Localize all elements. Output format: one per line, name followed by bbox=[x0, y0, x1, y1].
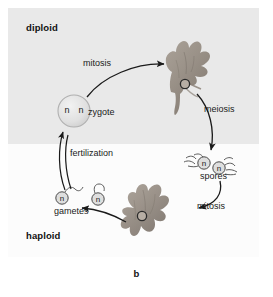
gamete-n-marker-1: n bbox=[60, 194, 64, 203]
zygote-n-marker-1: n bbox=[64, 105, 69, 115]
diagram-graphics-layer: n n n n n bbox=[8, 8, 259, 257]
figure-root: n n n n n bbox=[0, 0, 273, 297]
spore-cell-left: n bbox=[184, 154, 210, 169]
zygote-label: zygote bbox=[88, 107, 115, 117]
zygote-n-marker-2: n bbox=[78, 105, 83, 115]
arrow-mitosis-top bbox=[87, 64, 164, 97]
haploid-zone-label: haploid bbox=[26, 230, 60, 241]
fertilization-label: fertilization bbox=[70, 148, 113, 158]
spores-label: spores bbox=[200, 171, 227, 181]
gamete-cell-left: n bbox=[56, 187, 83, 204]
sporophyte-nucleus bbox=[180, 79, 189, 88]
spore-n-marker-1: n bbox=[202, 159, 206, 168]
arrow-meiosis bbox=[197, 94, 212, 150]
mitosis-top-label: mitosis bbox=[83, 58, 111, 68]
arrow-fertilization bbox=[59, 132, 71, 190]
gametophyte-nucleus bbox=[137, 211, 146, 220]
diploid-zone-label: diploid bbox=[26, 22, 58, 33]
gamete-n-marker-2: n bbox=[96, 195, 100, 204]
life-cycle-diagram-panel: n n n n n bbox=[8, 8, 259, 257]
figure-caption: b bbox=[0, 268, 273, 279]
meiosis-label: meiosis bbox=[204, 104, 235, 114]
gamete-cell-right: n bbox=[92, 184, 104, 205]
zygote-cell: n n bbox=[58, 95, 90, 127]
gametes-label: gametes bbox=[54, 206, 89, 216]
gametophyte-organism bbox=[121, 184, 169, 236]
mitosis-bottom-label: mitosis bbox=[197, 201, 225, 211]
